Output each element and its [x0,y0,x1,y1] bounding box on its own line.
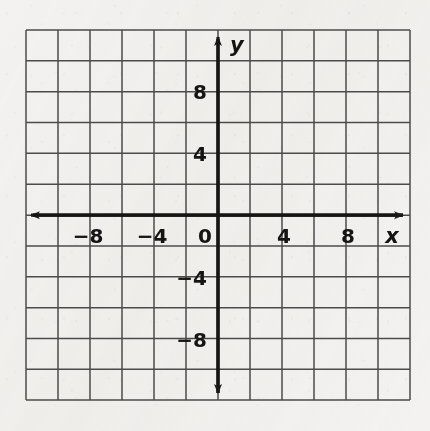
y-tick-label-4: 4 [193,142,207,166]
axes [31,37,403,393]
y-axis-label: y [230,33,245,57]
coordinate-plane-figure: −8 −4 0 4 8 8 4 −4 −8 y x [0,0,430,431]
y-tick-label-8: 8 [193,80,207,104]
origin-label: 0 [198,224,212,248]
x-axis-tick-labels: −8 −4 0 4 8 [73,224,355,248]
y-tick-label-neg4: −4 [176,266,207,290]
x-tick-label-neg4: −4 [137,224,168,248]
x-axis-label: x [384,224,400,248]
x-tick-label-neg8: −8 [73,224,104,248]
coordinate-plane-svg: −8 −4 0 4 8 8 4 −4 −8 y x [0,0,430,431]
x-tick-label-8: 8 [341,224,355,248]
x-tick-label-4: 4 [277,224,291,248]
y-tick-label-neg8: −8 [176,328,207,352]
